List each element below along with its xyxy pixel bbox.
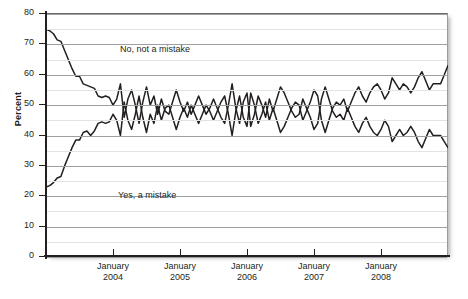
x-tick-label-3: January2007 xyxy=(279,261,349,283)
series-label-yes: Yes, a mistake xyxy=(118,190,176,200)
y-tick-label-60: 60 xyxy=(4,69,34,78)
y-tick-label-20: 20 xyxy=(4,190,34,199)
x-tick-label-month: January xyxy=(212,261,282,272)
x-tick-label-month: January xyxy=(145,261,215,272)
gridline-major-0 xyxy=(46,257,447,258)
gridline-minor-45 xyxy=(46,120,447,121)
x-tick-label-month: January xyxy=(78,261,148,272)
x-tick-label-year: 2008 xyxy=(346,272,416,283)
gridline-major-40 xyxy=(46,136,447,137)
x-tick-label-month: January xyxy=(279,261,349,272)
y-tick-10 xyxy=(39,226,45,227)
gridline-major-10 xyxy=(46,227,447,228)
y-tick-label-70: 70 xyxy=(4,38,34,47)
y-tick-30 xyxy=(39,165,45,166)
x-tick-0 xyxy=(113,249,114,256)
y-tick-label-50: 50 xyxy=(4,99,34,108)
gridline-major-50 xyxy=(46,105,447,106)
gridline-minor-55 xyxy=(46,90,447,91)
gridline-minor-75 xyxy=(46,29,447,30)
y-tick-70 xyxy=(39,43,45,44)
x-tick-label-4: January2008 xyxy=(346,261,416,283)
y-tick-label-0: 0 xyxy=(4,251,34,260)
x-tick-4 xyxy=(381,249,382,256)
y-tick-60 xyxy=(39,74,45,75)
y-tick-label-80: 80 xyxy=(4,8,34,17)
x-tick-label-year: 2005 xyxy=(145,272,215,283)
series-label-no: No, not a mistake xyxy=(120,44,190,54)
x-tick-label-year: 2006 xyxy=(212,272,282,283)
x-tick-3 xyxy=(314,249,315,256)
gridline-minor-65 xyxy=(46,60,447,61)
y-tick-0 xyxy=(39,256,45,257)
x-tick-label-year: 2007 xyxy=(279,272,349,283)
y-tick-label-40: 40 xyxy=(4,130,34,139)
x-tick-label-0: January2004 xyxy=(78,261,148,283)
gridline-minor-15 xyxy=(46,211,447,212)
x-tick-2 xyxy=(247,249,248,256)
y-axis-line xyxy=(45,11,47,259)
y-tick-label-10: 10 xyxy=(4,221,34,230)
x-tick-label-month: January xyxy=(346,261,416,272)
gridline-major-60 xyxy=(46,75,447,76)
gridline-major-20 xyxy=(46,196,447,197)
x-tick-label-year: 2004 xyxy=(78,272,148,283)
gridline-major-30 xyxy=(46,166,447,167)
gridline-minor-5 xyxy=(46,242,447,243)
x-tick-label-2: January2006 xyxy=(212,261,282,283)
y-tick-50 xyxy=(39,104,45,105)
gridline-major-70 xyxy=(46,44,447,45)
y-tick-80 xyxy=(39,13,45,14)
y-tick-20 xyxy=(39,195,45,196)
gridlines xyxy=(46,14,447,256)
x-tick-1 xyxy=(180,249,181,256)
gridline-minor-25 xyxy=(46,181,447,182)
gridline-major-80 xyxy=(46,14,447,15)
chart-figure: Percent No, not a mistake Yes, a mistake… xyxy=(0,0,468,299)
y-tick-40 xyxy=(39,135,45,136)
y-tick-label-30: 30 xyxy=(4,160,34,169)
plot-area: No, not a mistake Yes, a mistake xyxy=(46,13,448,256)
x-tick-label-1: January2005 xyxy=(145,261,215,283)
gridline-minor-35 xyxy=(46,151,447,152)
